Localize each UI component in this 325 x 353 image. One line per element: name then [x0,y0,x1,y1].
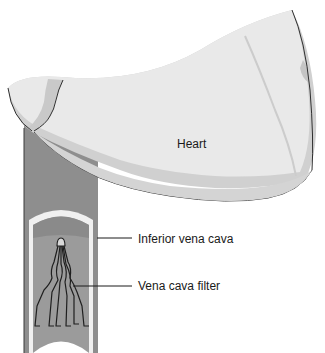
heart-label: Heart [177,137,206,151]
vena-cava-filter-label: Vena cava filter [138,279,220,293]
vena-cava-filter-diagram [0,0,325,353]
inferior-vena-cava-label: Inferior vena cava [138,232,233,246]
